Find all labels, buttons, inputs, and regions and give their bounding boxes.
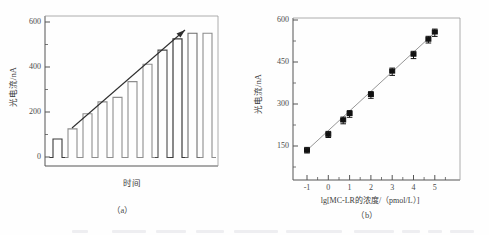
data-point-9 [432, 29, 438, 36]
figure-root: 0 200 400 600 光电流/nA 时间 （a） [0, 0, 489, 235]
bar-3 [80, 114, 95, 158]
panel-b-ytick-600: 600 [263, 15, 289, 24]
panel-b-xtick-0: 0 [318, 183, 338, 192]
panel-b-caption: （b） [245, 208, 489, 220]
panel-b-x-axis-title: lg[MC-LR的浓度/（pmol/L）] [265, 194, 475, 205]
panel-b-ytick-300: 300 [263, 99, 289, 108]
panel-a-ytick-400: 400 [16, 62, 41, 71]
panel-a-ytick-600: 600 [16, 17, 41, 26]
panel-b-y-axis-title: 光电流/nA [251, 64, 263, 124]
panel-a-y-ticks [45, 22, 50, 157]
panel-a-plot [0, 0, 245, 235]
bar-5 [110, 97, 125, 157]
panel-a-bars [50, 33, 216, 157]
page-footer-text-fragment [0, 228, 489, 235]
data-point-6 [389, 68, 395, 75]
data-point-5 [368, 92, 374, 99]
panel-a: 0 200 400 600 光电流/nA 时间 （a） [0, 0, 245, 235]
panel-a-caption: （a） [0, 203, 245, 215]
panel-a-axes [45, 16, 218, 166]
panel-a-ytick-200: 200 [16, 107, 41, 116]
panel-b-xtick-4: 4 [404, 183, 424, 192]
bar-9 [170, 39, 185, 158]
bar-11 [200, 33, 216, 157]
bar-7 [140, 64, 155, 157]
data-point-3 [340, 117, 346, 124]
panel-a-x-axis-title: 时间 [92, 176, 172, 188]
data-point-8 [426, 36, 432, 43]
data-point-4 [347, 111, 353, 118]
bar-1 [50, 139, 65, 158]
bar-6 [125, 82, 140, 158]
bar-8 [155, 50, 170, 157]
data-point-7 [411, 51, 417, 58]
bar-2 [65, 129, 80, 158]
panel-b: 600 450 300 150 -1 0 1 2 3 4 5 光电流/nA lg… [245, 0, 489, 235]
panel-b-xtick-5: 5 [425, 183, 445, 192]
panel-b-axes [293, 18, 460, 180]
bar-10 [185, 33, 200, 157]
panel-b-ytick-150: 150 [263, 141, 289, 150]
panel-b-xtick-3: 3 [382, 183, 402, 192]
panel-a-y-axis-title: 光电流/nA [6, 57, 18, 117]
bar-4 [95, 102, 110, 158]
panel-a-ytick-0: 0 [16, 152, 41, 161]
data-point-1 [304, 147, 310, 153]
panel-b-xtick-2: 2 [361, 183, 381, 192]
panel-b-y-ticks [293, 20, 298, 167]
data-point-2 [326, 131, 332, 137]
panel-b-xtick-neg1: -1 [297, 183, 317, 192]
panel-b-xtick-1: 1 [340, 183, 360, 192]
panel-b-ytick-450: 450 [263, 57, 289, 66]
panel-b-x-ticks [307, 175, 445, 180]
